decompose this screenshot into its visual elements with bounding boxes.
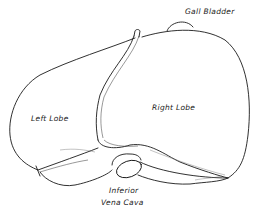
ivc-label-line1: Inferior xyxy=(109,186,138,195)
left-lobe-outline xyxy=(10,38,135,170)
liver-illustration xyxy=(0,0,258,214)
lower-lobe-shape xyxy=(40,170,112,186)
liver-diagram: Gall Bladder Left Lobe Right Lobe Inferi… xyxy=(0,0,258,214)
ivc-tube xyxy=(112,154,141,165)
right-lobe-label: Right Lobe xyxy=(152,103,195,112)
ivc-opening xyxy=(114,157,144,181)
gall-bladder-label: Gall Bladder xyxy=(185,7,235,16)
gall-bladder-shape xyxy=(167,22,193,31)
left-lobe-label: Left Lobe xyxy=(31,114,69,123)
falciform-ligament xyxy=(96,36,134,140)
ligament-tip xyxy=(134,30,140,38)
ivc-label-line2: Vena Cava xyxy=(101,198,144,207)
